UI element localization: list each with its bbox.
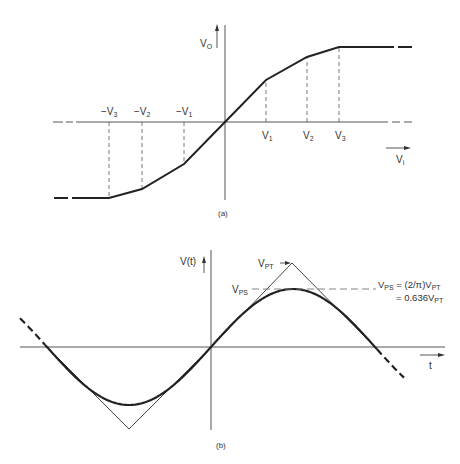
caption-a: (a) (218, 209, 228, 218)
figure-b: V(t) t VPT VPS (20, 250, 445, 450)
neg-v3-label: −V3 (101, 106, 118, 118)
neg-v2-label: −V2 (134, 106, 151, 118)
vo-arrow-icon (215, 24, 219, 48)
t-arrow-icon (420, 353, 445, 357)
sine-wave-tail-left (20, 318, 45, 344)
vpt-arrow-icon (280, 261, 291, 265)
vi-arrow-icon (386, 146, 411, 150)
figure-a: VO Vi −V3 −V2 (53, 24, 412, 218)
pos-v3-label: V3 (335, 130, 346, 142)
diagram-canvas: VO Vi −V3 −V2 (0, 0, 460, 464)
vt-label: V(t) (180, 256, 196, 267)
t-label: t (429, 360, 432, 371)
vi-label: Vi (396, 154, 405, 166)
sine-wave-tail-right (377, 349, 404, 377)
vps-equation-line1: VPS = (2/π)VPT (378, 279, 441, 291)
vt-arrow-icon (202, 256, 206, 273)
neg-v1-label: −V1 (176, 106, 193, 118)
vps-label: VPS (232, 284, 248, 296)
caption-b: (b) (216, 441, 226, 450)
pos-v2-label: V2 (303, 130, 314, 142)
pos-v1-label: V1 (262, 130, 273, 142)
vpt-label: VPT (258, 258, 274, 270)
vo-label: VO (200, 38, 213, 50)
vps-equation-line2: = 0.636VPT (396, 292, 444, 304)
